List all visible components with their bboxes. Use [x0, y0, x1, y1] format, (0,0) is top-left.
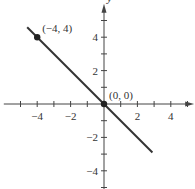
x-tick-label: −2 — [65, 110, 77, 122]
point-label: (−4, 4) — [42, 22, 72, 35]
y-axis-label: y — [106, 0, 112, 4]
x-tick-label: 4 — [168, 110, 174, 122]
y-tick-label: 4 — [93, 31, 99, 43]
axes: xy — [4, 0, 195, 189]
point-marker — [101, 101, 107, 107]
x-tick-label: 2 — [135, 110, 141, 122]
y-tick-label: −4 — [86, 165, 98, 177]
x-axis-arrow-icon — [185, 102, 194, 107]
x-tick-label: −4 — [31, 110, 43, 122]
point-label: (0, 0) — [109, 89, 133, 102]
y-tick-label: −2 — [86, 131, 98, 143]
y-tick-label: 2 — [93, 65, 99, 77]
coordinate-plot: xy −4−22442−2−4 (−4, 4)(0, 0) — [0, 0, 195, 189]
point-marker — [34, 34, 40, 40]
data-points: (−4, 4)(0, 0) — [34, 22, 133, 107]
y-axis-arrow-icon — [102, 4, 107, 13]
